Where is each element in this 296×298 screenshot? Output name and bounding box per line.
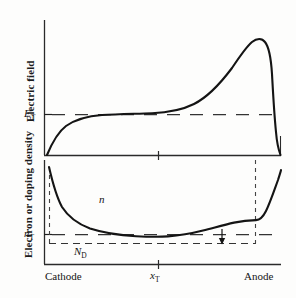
doping-down-arrow	[219, 229, 225, 244]
doping-density-label: ND	[74, 245, 87, 260]
threshold-field-symbol: E	[24, 107, 31, 119]
electron-density-curve-label: n	[99, 193, 105, 205]
upper-panel	[44, 20, 281, 160]
x-axis-label-anode: Anode	[244, 270, 273, 282]
plot-canvas	[0, 0, 296, 298]
x-axis-label-xt: xT	[150, 269, 159, 284]
threshold-field-tick-label: ET	[24, 107, 35, 122]
x-axis-label-cathode: Cathode	[45, 270, 82, 282]
x-axis-xt-subscript: T	[155, 275, 160, 284]
doping-density-subscript: D	[81, 251, 86, 260]
electric-field-curve	[47, 39, 281, 155]
figure-container: Electric field ET Electron or doping den…	[0, 0, 296, 298]
electron-density-curve	[49, 167, 281, 237]
threshold-density-tick-label: nT	[24, 227, 34, 242]
threshold-density-subscript: T	[30, 233, 35, 242]
threshold-field-subscript: T	[31, 113, 36, 122]
